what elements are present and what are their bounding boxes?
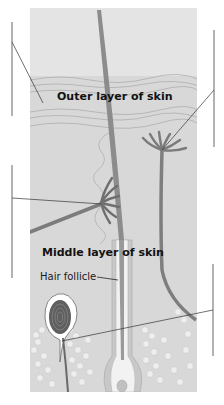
label-outer-layer: Outer layer of skin [57,90,173,103]
air-above-skin [30,8,197,76]
hair-bulb [117,380,127,392]
skin-diagram: Outer layer of skin Middle layer of skin… [0,0,224,405]
illustration-panel: Outer layer of skin Middle layer of skin… [30,8,200,392]
label-middle-layer: Middle layer of skin [42,246,164,259]
label-hair-follicle: Hair follicle [40,271,96,282]
